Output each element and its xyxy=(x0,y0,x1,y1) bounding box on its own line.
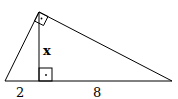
left-segment-label: 2 xyxy=(16,85,24,99)
apex-marker-dot xyxy=(41,18,43,20)
altitude-label: x xyxy=(43,43,51,58)
triangle-diagram: x 2 8 xyxy=(0,0,178,99)
foot-marker-dot xyxy=(45,74,47,76)
right-segment-label: 8 xyxy=(93,85,101,99)
triangle xyxy=(5,12,172,81)
